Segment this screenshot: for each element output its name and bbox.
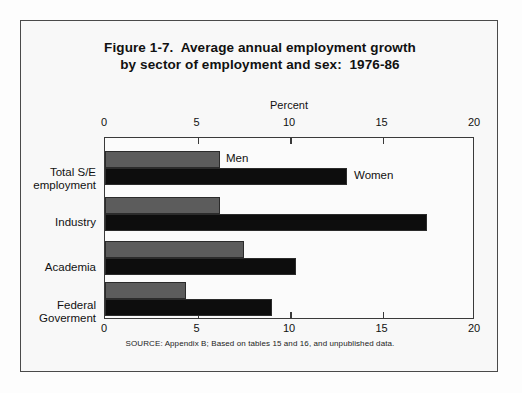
series-label-men: Men (226, 152, 248, 164)
series-label-women: Women (354, 169, 393, 181)
x-tick-bottom-10 (290, 312, 292, 318)
x-tick-label-top-1: 5 (193, 116, 199, 128)
bar-women-total-se (105, 168, 347, 185)
plot-area: Men Women (104, 137, 474, 319)
category-label-academia: Academia (21, 248, 96, 287)
x-axis-label: Percent (104, 99, 474, 111)
x-tick-label-top-3: 15 (375, 116, 387, 128)
bar-women-industry (105, 214, 427, 231)
bar-women-academia (105, 258, 296, 275)
x-tick-label-top-4: 20 (468, 116, 480, 128)
category-label-total-se: Total S/E employment (21, 153, 96, 205)
x-tick-top-15 (383, 138, 385, 144)
source-note: SOURCE: Appendix B; Based on tables 15 a… (21, 339, 499, 348)
x-tick-label-bottom-1: 5 (193, 322, 199, 334)
chart-title-line-1: Figure 1-7. Average annual employment gr… (21, 39, 499, 56)
category-label-industry-text: Industry (55, 216, 96, 228)
bar-men-federal-government (105, 282, 186, 299)
x-tick-bottom-15 (383, 312, 385, 318)
x-tick-top-10 (290, 138, 292, 144)
x-tick-top-5 (198, 138, 200, 144)
category-label-federal-government-text: Federal Goverment (39, 299, 96, 324)
bar-men-total-se (105, 151, 220, 168)
x-tick-label-bottom-2: 10 (283, 322, 295, 334)
x-tick-label-bottom-3: 15 (375, 322, 387, 334)
x-tick-label-top-0: 0 (101, 116, 107, 128)
figure-frame: Figure 1-7. Average annual employment gr… (20, 20, 498, 372)
x-tick-label-top-2: 10 (283, 116, 295, 128)
x-tick-label-bottom-4: 20 (468, 322, 480, 334)
category-label-industry: Industry (21, 203, 96, 242)
category-label-academia-text: Academia (45, 261, 96, 273)
chart-title: Figure 1-7. Average annual employment gr… (21, 39, 499, 73)
category-label-federal-government: Federal Goverment (21, 286, 96, 338)
category-label-total-se-text: Total S/E employment (33, 166, 96, 191)
x-tick-label-bottom-0: 0 (101, 322, 107, 334)
chart-title-line-2: by sector of employment and sex: 1976-86 (21, 56, 499, 73)
bar-men-academia (105, 241, 244, 258)
bar-women-federal-government (105, 299, 272, 316)
bar-men-industry (105, 197, 220, 214)
